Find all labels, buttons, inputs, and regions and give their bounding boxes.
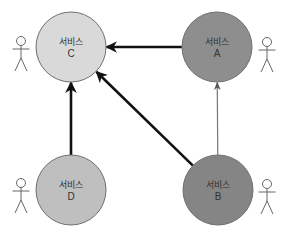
service-name: D (67, 191, 74, 202)
service-circle (36, 155, 106, 225)
user-actor-icon (13, 179, 30, 214)
service-node-a: 서비스A (182, 12, 252, 82)
service-label: 서비스 (206, 180, 230, 190)
service-node-c: 서비스C (36, 12, 106, 82)
service-name: C (67, 48, 74, 59)
service-name: A (214, 48, 221, 59)
service-circle (182, 12, 252, 82)
service-diagram: 서비스C서비스A서비스D서비스B (0, 0, 288, 239)
service-circle (36, 12, 106, 82)
service-node-d: 서비스D (36, 155, 106, 225)
user-actor-icon (13, 37, 30, 72)
user-actor-icon (259, 180, 276, 215)
service-circle (183, 155, 253, 225)
service-node-b: 서비스B (183, 155, 253, 225)
user-actor-icon (259, 38, 276, 73)
service-label: 서비스 (59, 180, 83, 190)
edge-b-to-c (96, 72, 192, 166)
service-label: 서비스 (59, 37, 83, 47)
edge-b-to-a (217, 82, 218, 155)
service-name: B (215, 191, 222, 202)
service-label: 서비스 (205, 37, 229, 47)
